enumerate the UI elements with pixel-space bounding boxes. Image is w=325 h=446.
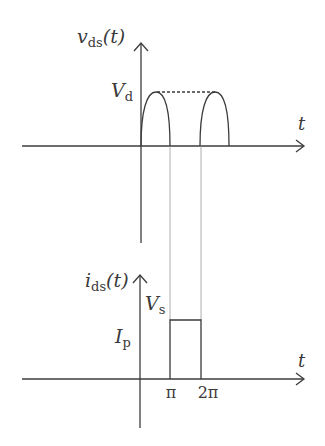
- upper-arch-1: [141, 92, 170, 146]
- tick-label-2pi: 2π: [198, 383, 219, 402]
- current-pulse: [170, 320, 201, 379]
- ip-label: Ip: [114, 325, 131, 350]
- waveform-diagram: vds(t) t Vd ids(t) t Vs Ip π 2π: [0, 0, 325, 446]
- lower-y-label: ids(t): [85, 269, 129, 294]
- upper-plot: vds(t) t Vd: [22, 25, 306, 243]
- vd-label: Vd: [111, 79, 133, 104]
- upper-y-label: vds(t): [77, 25, 125, 50]
- upper-arch-2: [200, 92, 229, 146]
- tick-label-pi: π: [166, 383, 177, 402]
- vs-label: Vs: [145, 292, 165, 317]
- upper-x-label: t: [298, 113, 306, 134]
- lower-plot: ids(t) t Vs Ip π 2π: [22, 269, 306, 428]
- lower-x-label: t: [298, 350, 306, 371]
